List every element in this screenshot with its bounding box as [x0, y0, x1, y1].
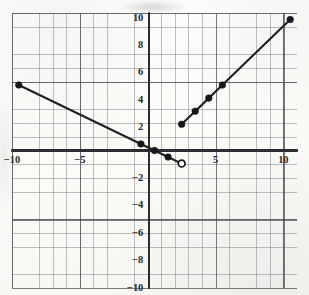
data-point-closed-4-4 [205, 95, 212, 102]
curve-right-branch [182, 20, 291, 125]
series-left-branch [15, 82, 185, 167]
data-point-closed-2-2 [178, 121, 185, 128]
data-point-closed--1-0.5 [138, 141, 145, 148]
scan-smudge-top [118, 0, 188, 12]
data-point-open-2--1 [178, 160, 185, 167]
data-point-closed-0-0 [151, 147, 158, 154]
data-point-closed-5-5 [219, 82, 226, 89]
graph-figure: −10 −5 5 10 10 8 6 4 2 −2 −4 −6 −8 −10 [0, 0, 309, 295]
data-point-closed-1--0.5 [165, 154, 172, 161]
data-point-closed-3-3 [192, 108, 199, 115]
series-right-branch [178, 16, 293, 127]
data-point-closed--10-5 [15, 82, 22, 89]
data-series-layer [12, 13, 297, 288]
data-point-closed-10-10 [287, 16, 294, 23]
plot-area: −10 −5 5 10 10 8 6 4 2 −2 −4 −6 −8 −10 [12, 13, 297, 288]
major-gridline-y--10 [12, 288, 297, 289]
